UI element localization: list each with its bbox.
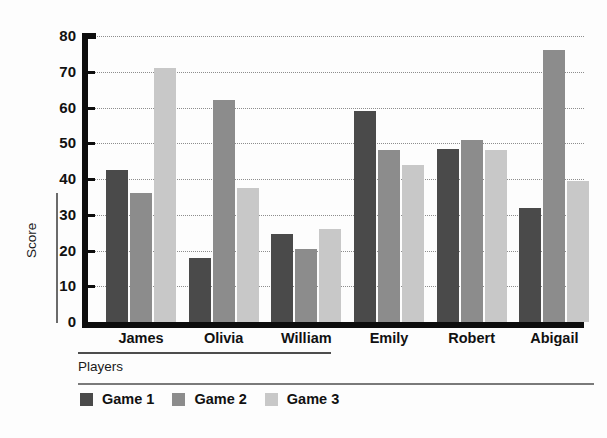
bar-group	[189, 36, 259, 322]
bar[interactable]	[354, 111, 376, 322]
y-axis-title-rule	[56, 193, 58, 323]
bar[interactable]	[567, 181, 589, 322]
y-axis-tick-label: 50	[42, 135, 76, 150]
bar-group	[106, 36, 176, 322]
bar[interactable]	[271, 234, 293, 322]
bar[interactable]	[461, 140, 483, 322]
bar[interactable]	[378, 150, 400, 322]
bar[interactable]	[402, 165, 424, 322]
y-axis-tick-label: 40	[42, 171, 76, 186]
bar[interactable]	[106, 170, 128, 322]
bar[interactable]	[319, 229, 341, 322]
x-axis-title-rule	[78, 352, 331, 354]
bar[interactable]	[485, 150, 507, 322]
x-axis-title: Players	[78, 359, 123, 374]
x-axis-label: Abigail	[504, 330, 604, 346]
chart-legend: Game 1Game 2Game 3	[80, 391, 339, 407]
y-axis-tick-label: 0	[42, 314, 76, 329]
y-axis-tick-label: 80	[42, 28, 76, 43]
y-axis-tick-label: 70	[42, 64, 76, 79]
bar[interactable]	[189, 258, 211, 322]
y-axis-tick-label: 60	[42, 100, 76, 115]
bar[interactable]	[437, 149, 459, 322]
y-axis-tick-label: 10	[42, 278, 76, 293]
bar-group	[354, 36, 424, 322]
legend-item[interactable]: Game 1	[80, 391, 154, 407]
bar[interactable]	[154, 68, 176, 322]
bar-chart: 01020304050607080 JamesOliviaWilliamEmil…	[0, 0, 607, 438]
bar[interactable]	[213, 100, 235, 322]
bar-group	[271, 36, 341, 322]
legend-label: Game 1	[102, 391, 154, 407]
legend-label: Game 3	[287, 391, 339, 407]
legend-item[interactable]: Game 3	[265, 391, 339, 407]
legend-label: Game 2	[194, 391, 246, 407]
legend-item[interactable]: Game 2	[172, 391, 246, 407]
bar[interactable]	[237, 188, 259, 322]
bar[interactable]	[295, 249, 317, 322]
bar-group	[437, 36, 507, 322]
bar[interactable]	[519, 208, 541, 322]
plot-area	[88, 36, 584, 322]
bar-group	[519, 36, 589, 322]
bar[interactable]	[543, 50, 565, 322]
legend-swatch-icon	[265, 393, 278, 406]
y-axis-tick-label: 20	[42, 243, 76, 258]
legend-rule	[78, 383, 594, 385]
bar[interactable]	[130, 193, 152, 322]
x-axis-spine	[82, 322, 584, 328]
legend-swatch-icon	[80, 393, 93, 406]
y-axis-tick-label: 30	[42, 207, 76, 222]
y-axis-title: Score	[24, 223, 39, 258]
legend-swatch-icon	[172, 393, 185, 406]
